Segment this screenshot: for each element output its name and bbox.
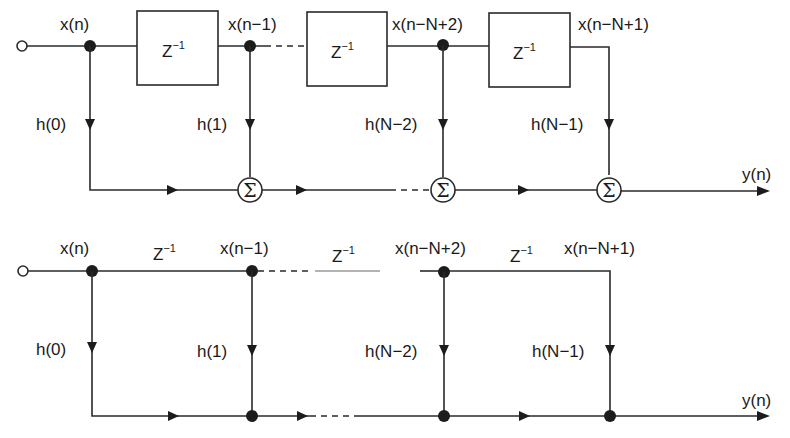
sum-junction-2: Σ [431, 178, 455, 202]
tap-label-1: x(n−1) [228, 15, 277, 34]
delay-line-segment [570, 47, 609, 175]
flow-arrow-icon [167, 185, 178, 195]
sum-node-2 [438, 410, 450, 422]
coef-label-3: h(N−1) [532, 342, 584, 361]
tap-label-3: x(n−N+1) [578, 15, 649, 34]
coef-label-2: h(N−2) [365, 115, 417, 134]
flow-arrow-icon [168, 411, 179, 421]
tap-label-3: x(n−N+1) [564, 239, 635, 258]
input-terminal-icon [17, 41, 27, 51]
coef-arrow-icon [439, 345, 449, 356]
tap-label-0: x(n) [60, 239, 89, 258]
flow-arrow-icon [296, 185, 307, 195]
sum-node-1 [246, 410, 258, 422]
coef-label-1: h(1) [197, 115, 227, 134]
coef-arrow-icon [85, 119, 95, 130]
tap-label-2: x(n−N+2) [395, 239, 466, 258]
coef-arrow-icon [245, 119, 255, 130]
flow-arrow-icon [518, 185, 529, 195]
coef-arrow-icon [605, 345, 615, 356]
coef-arrow-icon [604, 119, 614, 130]
sum-node-3 [604, 410, 616, 422]
block-diagram: Z−1 Z−1 Z−1 x(n) x(n−1) x(n−N+2) x(n−N+1… [17, 11, 771, 202]
svg-text:Σ: Σ [602, 179, 615, 201]
coef-label-0: h(0) [36, 115, 66, 134]
flow-arrow-icon [519, 411, 530, 421]
svg-text:Σ: Σ [243, 179, 256, 201]
tap-label-0: x(n) [60, 15, 89, 34]
output-label: y(n) [742, 391, 771, 410]
coef-arrow-icon [438, 119, 448, 130]
input-terminal-icon [18, 266, 28, 276]
sum-junction-3: Σ [597, 178, 621, 202]
svg-text:Σ: Σ [436, 179, 449, 201]
coef-arrow-icon [247, 345, 257, 356]
coef-arrow-icon [87, 342, 97, 353]
tap-label-1: x(n−1) [220, 239, 269, 258]
sum-junction-1: Σ [238, 178, 262, 202]
coef-label-1: h(1) [197, 342, 227, 361]
output-arrow-icon [757, 411, 770, 421]
delay-label-1: Z−1 [153, 242, 176, 264]
coef-label-3: h(N−1) [531, 115, 583, 134]
coef-label-2: h(N−2) [365, 342, 417, 361]
delay-label-2: Z−1 [332, 244, 355, 266]
output-label: y(n) [742, 165, 771, 184]
fir-filter-diagram: Z−1 Z−1 Z−1 x(n) x(n−1) x(n−N+2) x(n−N+1… [0, 0, 790, 438]
coef-label-0: h(0) [36, 340, 66, 359]
output-arrow-icon [757, 186, 770, 196]
delay-branch-3 [444, 271, 610, 416]
flow-arrow-icon [297, 411, 308, 421]
branch-0 [92, 271, 252, 416]
signal-flow-graph: Z−1 Z−1 Z−1 x(n) x(n−1) x(n−N+2) x(n−N+1… [18, 239, 771, 422]
tap-label-2: x(n−N+2) [392, 15, 463, 34]
delay-label-3: Z−1 [510, 244, 533, 266]
